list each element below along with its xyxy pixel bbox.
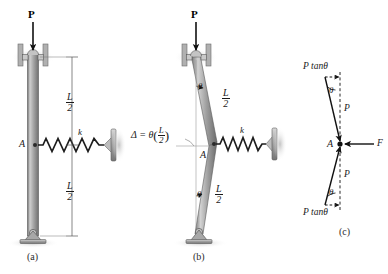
theta-label-lower-c: θ xyxy=(329,188,333,197)
point-a-label-b: A xyxy=(200,150,206,160)
deflection-prefix-b: Δ = θ xyxy=(131,129,153,140)
point-a-label-a: A xyxy=(19,139,25,149)
wall-shadow-a xyxy=(112,128,126,162)
dim-upper-denominator-a: 2 xyxy=(66,103,74,113)
deflection-label-b: Δ = θ( L 2 ) xyxy=(131,126,169,145)
dim-lower-denominator-a: 2 xyxy=(66,192,74,202)
len-upper-denominator-b: 2 xyxy=(222,99,230,109)
panel-b-graphics xyxy=(172,22,287,248)
load-label-b: P xyxy=(191,9,198,20)
panel-tag-c: (c) xyxy=(339,227,350,237)
wall-shadow-b xyxy=(273,127,287,161)
base-plate-b xyxy=(186,240,212,244)
dimension-label-upper-a: L 2 xyxy=(66,92,74,113)
point-a-label-c: A xyxy=(327,139,333,149)
theta-label-upper-c: θ xyxy=(329,86,333,95)
roller-block-right-b xyxy=(201,55,207,61)
panel-tag-a: (a) xyxy=(27,252,38,262)
base-plate-a xyxy=(20,240,46,244)
length-label-upper-b: L 2 xyxy=(222,88,230,109)
force-ptan-label-lower-c: P tanθ xyxy=(303,208,328,218)
len-lower-denominator-b: 2 xyxy=(215,195,223,205)
spring-constant-label-a: k xyxy=(78,128,82,137)
spring-coil-b xyxy=(216,138,266,151)
theta-label-upper-b: θ xyxy=(198,82,202,91)
column-upper-segment-b xyxy=(192,57,218,146)
figure-canvas xyxy=(0,0,388,274)
force-p-label-upper-c: P xyxy=(344,104,350,114)
panel-tag-b: (b) xyxy=(193,252,205,262)
deflection-paren-close-b: ) xyxy=(165,128,169,143)
roller-block-left-a xyxy=(23,55,29,61)
spring-force-label-c: F xyxy=(377,139,383,149)
length-label-lower-b: L 2 xyxy=(215,184,223,205)
force-ptan-label-upper-c: P tanθ xyxy=(303,62,328,72)
figure-root: P A k L 2 L 2 (a) P θ θ L 2 L 2 Δ = θ( L… xyxy=(0,0,388,274)
dimension-label-lower-a: L 2 xyxy=(66,181,74,202)
load-label-a: P xyxy=(28,9,35,20)
delta-leader-b xyxy=(185,139,194,146)
panel-a-graphics xyxy=(7,22,126,248)
theta-label-lower-b: θ xyxy=(197,190,201,199)
force-p-label-lower-c: P xyxy=(344,170,350,180)
pin-bracket-b xyxy=(191,230,207,240)
joint-a-dot-panel-c xyxy=(337,141,342,146)
spring-constant-label-b: k xyxy=(240,126,244,135)
deflection-denominator-b: 2 xyxy=(158,136,165,145)
joint-a-dot-panel-a xyxy=(33,143,37,147)
joint-a-dot-panel-b xyxy=(212,142,216,146)
